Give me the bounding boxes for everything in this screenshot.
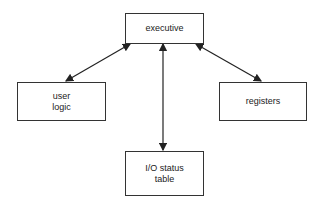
user-logic-box: user logic xyxy=(17,82,106,121)
registers-label: registers xyxy=(246,96,281,107)
user-logic-label: user logic xyxy=(52,91,71,113)
io-status-table-label: I/O status table xyxy=(145,163,184,185)
arrow-executive-user-logic xyxy=(66,44,130,81)
executive-box: executive xyxy=(125,13,204,44)
executive-label: executive xyxy=(145,23,183,34)
registers-box: registers xyxy=(219,82,307,121)
io-status-table-box: I/O status table xyxy=(125,151,204,196)
arrow-executive-registers xyxy=(196,44,261,81)
